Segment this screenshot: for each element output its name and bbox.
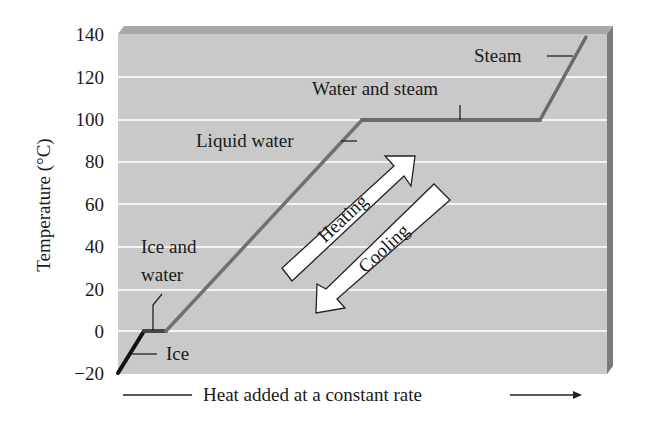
y-tick-0: 0 (95, 321, 105, 342)
y-tick-60: 60 (85, 194, 104, 215)
y-tick-80: 80 (85, 151, 104, 172)
label-water-and-steam: Water and steam (312, 78, 438, 99)
x-axis-label-group: Heat added at a constant rate (123, 384, 582, 405)
y-tick-neg20: −20 (74, 363, 104, 384)
heating-curve-chart: 140 120 100 80 60 40 20 0 −20 Temperatur… (0, 0, 647, 428)
x-axis-arrowhead-icon (573, 391, 582, 399)
y-tick-100: 100 (76, 109, 105, 130)
y-axis-ticks: 140 120 100 80 60 40 20 0 −20 (74, 24, 104, 384)
x-axis-label: Heat added at a constant rate (203, 384, 422, 405)
label-ice-and-water-2: water (141, 264, 184, 285)
y-tick-20: 20 (85, 279, 104, 300)
y-tick-40: 40 (85, 236, 104, 257)
y-tick-140: 140 (76, 24, 105, 45)
plot-top-bevel (118, 26, 613, 34)
plot-side-panel (607, 26, 613, 374)
label-steam: Steam (474, 45, 522, 66)
label-liquid-water: Liquid water (196, 130, 294, 151)
label-ice: Ice (166, 343, 189, 364)
y-axis-label: Temperature (°C) (33, 138, 55, 271)
y-tick-120: 120 (76, 67, 105, 88)
label-ice-and-water-1: Ice and (141, 236, 197, 257)
